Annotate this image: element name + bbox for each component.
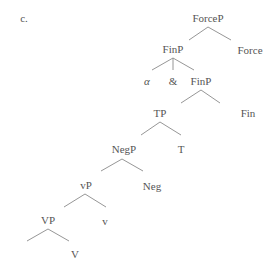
edge-tp-negp [141, 122, 160, 135]
edge-forcep-finp [189, 27, 208, 40]
node-vp: VP [41, 215, 55, 226]
node-negp: NegP [112, 144, 136, 155]
node-forcep: ForceP [192, 13, 223, 24]
example-label: c. [20, 13, 28, 24]
node-t: T [178, 144, 185, 155]
edge-finp-fin [201, 90, 220, 103]
edge-negp-vp [101, 159, 122, 171]
node-finp-lower: FinP [191, 76, 212, 87]
edge-tp-t [160, 122, 181, 135]
node-little-vp: vP [80, 180, 92, 191]
edge-littlevp-littlev [85, 194, 106, 207]
edge-forcep-force [208, 27, 231, 40]
edge-finp-alpha [152, 58, 173, 70]
node-ampersand: & [169, 76, 178, 87]
node-fin: Fin [241, 108, 256, 119]
node-alpha: α [144, 76, 150, 87]
edge-littlevp-vp [64, 194, 85, 207]
edge-vp-empty [27, 229, 48, 241]
edge-finp-finp [173, 58, 194, 70]
node-finp-upper: FinP [163, 44, 184, 55]
edge-finp-tp [181, 90, 201, 103]
edge-vp-v [48, 229, 69, 241]
node-tp: TP [154, 108, 167, 119]
tree-edges [0, 0, 276, 274]
node-force: Force [237, 45, 262, 56]
node-little-v: v [102, 216, 108, 227]
node-v: V [71, 249, 79, 260]
edge-negp-neg [122, 159, 143, 171]
node-neg: Neg [143, 181, 161, 192]
